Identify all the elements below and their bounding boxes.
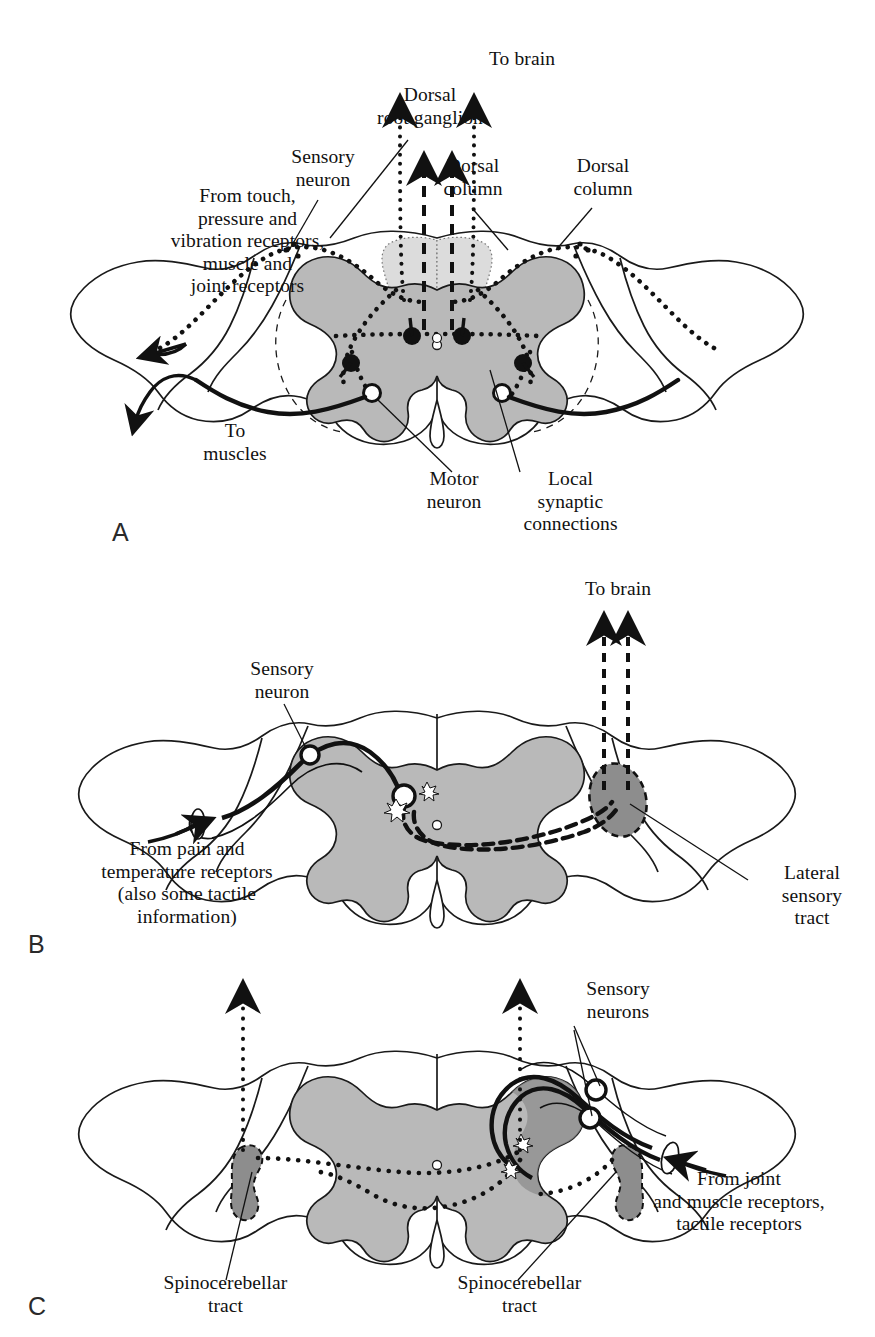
panel-letter-c: C	[28, 1292, 46, 1321]
panel-a-to-brain-label: To brain	[452, 48, 592, 71]
figure-root: To brain Dorsal root ganglion Sensory ne…	[0, 0, 875, 1337]
panel-b-sensory-neuron-soma	[301, 746, 319, 764]
panel-b-sensory-neuron-label: Sensory neuron	[212, 658, 352, 703]
panel-b-to-brain-label: To brain	[548, 578, 688, 601]
panel-c-spinocerebellar-right-label: Spinocerebellar tract	[412, 1272, 627, 1317]
panel-c-from-receptors-label: From joint and muscle receptors, tactile…	[608, 1168, 870, 1236]
panel-a-from-receptors-label: From touch, pressure and vibration recep…	[130, 185, 365, 298]
panel-letter-a: A	[112, 518, 129, 547]
panel-b-lateral-sensory-tract-label: Lateral sensory tract	[752, 862, 872, 930]
panel-a-dorsal-column-left-label: Dorsal column	[418, 155, 528, 200]
panel-a-dorsal-column-right-label: Dorsal column	[548, 155, 658, 200]
panel-a-dorsal-root-ganglion-label: Dorsal root ganglion	[330, 84, 530, 129]
panel-b-from-receptors-label: From pain and temperature receptors (als…	[48, 838, 326, 928]
panel-b-lateral-sensory-tract	[582, 757, 654, 842]
panel-c-spinocerebellar-left-label: Spinocerebellar tract	[118, 1272, 333, 1317]
panel-letter-b: B	[28, 930, 45, 959]
panel-a-local-synaptic-label: Local synaptic connections	[488, 468, 653, 536]
panel-c-sensory-neurons-label: Sensory neurons	[548, 978, 688, 1023]
panel-a-to-muscles-label: To muscles	[170, 420, 300, 465]
